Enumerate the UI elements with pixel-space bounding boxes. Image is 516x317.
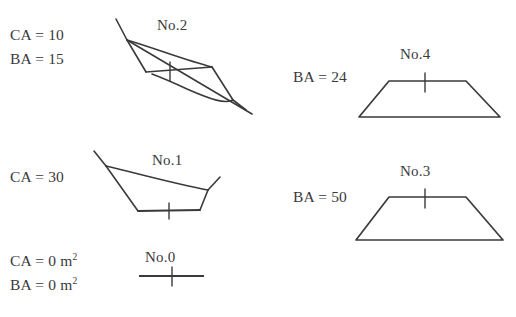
shape-label-no4: No.4 <box>400 46 430 63</box>
measure-label-no0-ba: BA = 0 m2 <box>10 276 77 294</box>
measure-label-no0-ca: CA = 0 m2 <box>10 252 77 270</box>
shape-no2-diagonal <box>127 40 252 114</box>
measure-label-no0-ca-exponent: 2 <box>72 252 77 262</box>
figure-canvas: CA = 10 BA = 15 CA = 30 CA = 0 m2 BA = 0… <box>0 0 516 317</box>
shape-no2-right-edge <box>212 67 233 100</box>
shape-no1-right-spur <box>208 177 220 190</box>
measure-label-no1-ca: CA = 30 <box>10 168 64 186</box>
shape-label-no3: No.3 <box>400 163 430 180</box>
shape-no4-outline <box>359 81 500 117</box>
shape-no2-tip <box>233 100 246 110</box>
shape-no3 <box>356 189 503 240</box>
shape-no3-outline <box>356 197 503 240</box>
measure-label-no2-ca: CA = 10 <box>10 26 64 44</box>
shape-no1-apex-spur <box>94 151 106 166</box>
shapes-svg <box>0 0 516 317</box>
measure-label-no2-ba: BA = 15 <box>10 50 64 68</box>
shape-no0 <box>139 267 204 286</box>
measure-label-no0-ba-text: BA = 0 m <box>10 276 72 293</box>
shape-label-no0: No.0 <box>145 249 175 266</box>
measure-label-no0-ba-exponent: 2 <box>72 276 77 286</box>
measure-label-no3-ba: BA = 50 <box>293 188 347 206</box>
shape-no4 <box>359 73 500 117</box>
shape-no1-right-edge <box>200 190 208 210</box>
shape-no2-outline <box>116 19 127 40</box>
measure-label-no4-ba: BA = 24 <box>293 68 347 86</box>
measure-label-no0-ca-text: CA = 0 m <box>10 252 72 269</box>
shape-label-no1: No.1 <box>152 152 182 169</box>
shape-label-no2: No.2 <box>157 17 187 34</box>
